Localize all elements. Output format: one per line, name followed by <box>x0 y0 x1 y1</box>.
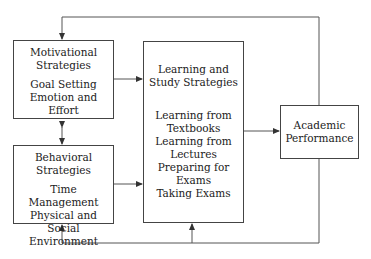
box-title: Strategies <box>14 59 113 72</box>
motivational-strategies-box: Motivational Strategies Goal Setting Emo… <box>13 40 114 119</box>
box-item: Environment <box>14 235 113 248</box>
box-title: Learning and <box>144 63 243 76</box>
box-title: Strategies <box>14 164 113 177</box>
box-item: Taking Exams <box>144 187 243 200</box>
box-item: Exams <box>144 174 243 187</box>
box-item: Textbooks <box>144 122 243 135</box>
box-item: Learning from <box>144 109 243 122</box>
box-title: Academic <box>281 119 358 132</box>
box-title: Performance <box>281 132 358 145</box>
box-title: Motivational <box>14 46 113 59</box>
box-title: Behavioral <box>14 151 113 164</box>
box-item: Learning from <box>144 135 243 148</box>
box-item: Goal Setting <box>14 78 113 91</box>
box-item: Effort <box>14 104 113 117</box>
box-item: Lectures <box>144 148 243 161</box>
diagram-canvas: Motivational Strategies Goal Setting Emo… <box>0 0 371 259</box>
box-title: Study Strategies <box>144 76 243 89</box>
behavioral-strategies-box: Behavioral Strategies Time Management Ph… <box>13 145 114 224</box>
box-item: Emotion and <box>14 91 113 104</box>
learning-study-strategies-box: Learning and Study Strategies Learning f… <box>143 41 244 223</box>
box-item: Physical and Social <box>14 209 113 235</box>
box-item: Preparing for <box>144 161 243 174</box>
academic-performance-box: Academic Performance <box>280 105 359 159</box>
box-item: Time Management <box>14 183 113 209</box>
